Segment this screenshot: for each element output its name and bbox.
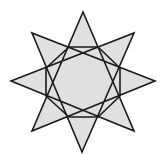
eight-pointed-star-diagram: [0, 0, 167, 156]
star-figure-canvas: [0, 0, 167, 156]
